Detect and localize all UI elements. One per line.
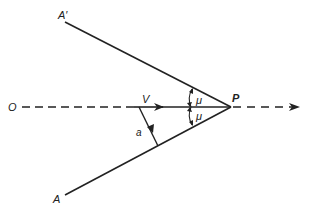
mach-cone-diagram: A′ A O V P a μ μ	[0, 0, 310, 209]
label-v: V	[142, 93, 151, 105]
mach-line-lower	[65, 107, 231, 195]
label-a-prime: A′	[57, 9, 68, 21]
label-mu-upper: μ	[195, 94, 202, 106]
mu-arc-upper-tip	[189, 88, 193, 94]
label-o: O	[8, 101, 17, 113]
mu-arc-lower-tip	[189, 120, 193, 126]
label-mu-lower: μ	[195, 110, 202, 122]
diagram-canvas: A′ A O V P a μ μ	[0, 0, 310, 209]
label-a-vector: a	[136, 127, 142, 138]
label-p: P	[232, 92, 240, 104]
label-a: A	[52, 193, 60, 205]
